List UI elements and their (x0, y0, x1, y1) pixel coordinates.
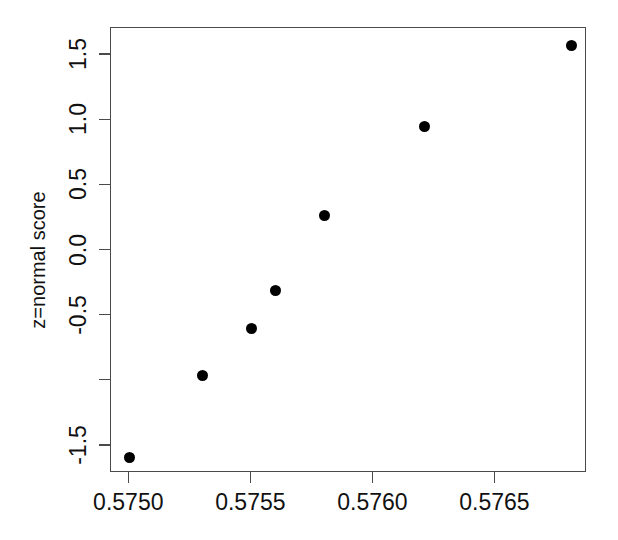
y-axis-tick-label: -0.5 (65, 295, 92, 335)
y-axis-tick-mark (99, 379, 110, 380)
y-axis-tick-mark (99, 444, 110, 445)
y-axis-tick-mark (99, 314, 110, 315)
x-axis-tick-label: 0.5765 (459, 489, 529, 516)
data-point (419, 121, 430, 132)
qq-plot-figure: z=normal score 1.51.00.50.0-0.5-1.5 0.57… (0, 0, 618, 540)
data-point (124, 452, 135, 463)
y-axis-tick-mark (99, 249, 110, 250)
y-axis-tick-mark (99, 119, 110, 120)
y-axis-tick-label: -1.5 (65, 425, 92, 465)
y-axis-tick-mark (99, 184, 110, 185)
y-axis-tick-label: 0.5 (65, 168, 92, 200)
y-axis-tick-label: 1.0 (65, 103, 92, 135)
x-axis-tick-mark (250, 472, 251, 483)
x-axis-tick-mark (372, 472, 373, 483)
x-axis-tick-label: 0.5755 (215, 489, 285, 516)
x-axis-tick-mark (128, 472, 129, 483)
y-axis-tick-label: 0.0 (65, 234, 92, 266)
y-axis-tick-mark (99, 53, 110, 54)
x-axis-tick-mark (494, 472, 495, 483)
data-point (197, 370, 208, 381)
x-axis-tick-label: 0.5750 (93, 489, 163, 516)
x-axis-tick-label: 0.5760 (337, 489, 407, 516)
data-point (270, 285, 281, 296)
y-axis-tick-label: 1.5 (65, 38, 92, 70)
data-point (319, 210, 330, 221)
y-axis-title: z=normal score (27, 191, 50, 328)
data-point (566, 40, 577, 51)
data-point (246, 323, 257, 334)
plot-panel (110, 27, 586, 472)
